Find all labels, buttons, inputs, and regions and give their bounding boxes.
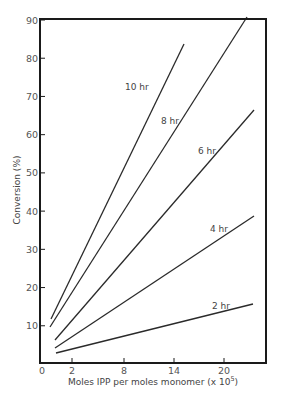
y-axis: 102030405060708090 xyxy=(26,15,45,332)
x-tick-label: 14 xyxy=(168,365,180,376)
series-label: 2 hr xyxy=(212,301,230,311)
y-tick-label: 70 xyxy=(26,91,38,102)
series-group: 10 hr8 hr6 hr4 hr2 hr xyxy=(50,17,254,353)
y-axis-title: Conversion (%) xyxy=(12,156,22,225)
y-tick-label: 80 xyxy=(26,53,38,64)
y-tick-label: 90 xyxy=(26,15,38,26)
x-axis-title: Moles IPP per moles monomer (x 105) xyxy=(68,375,238,387)
series-label: 4 hr xyxy=(210,224,228,234)
y-tick-label: 10 xyxy=(26,320,38,331)
y-tick-label: 50 xyxy=(26,167,38,178)
plot-frame xyxy=(40,19,266,363)
series-label: 10 hr xyxy=(125,82,149,92)
series-line-10-hr xyxy=(51,44,184,319)
y-tick-label: 30 xyxy=(26,244,38,255)
x-tick-label: 2 xyxy=(69,365,75,376)
chart: 102030405060708090 0281420 10 hr8 hr6 hr… xyxy=(0,0,282,399)
series-line-8-hr xyxy=(50,17,247,327)
x-tick-label: 8 xyxy=(121,365,127,376)
x-axis-title-main: Moles IPP per moles monomer (x 10 xyxy=(68,377,231,387)
y-tick-label: 60 xyxy=(26,129,38,140)
line-chart: 102030405060708090 0281420 10 hr8 hr6 hr… xyxy=(0,0,282,399)
x-tick-label: 20 xyxy=(218,365,230,376)
x-axis: 0281420 xyxy=(39,358,230,376)
x-axis-title-suffix: ) xyxy=(235,377,239,387)
series-label: 8 hr xyxy=(161,116,179,126)
series-label: 6 hr xyxy=(198,146,216,156)
y-tick-label: 20 xyxy=(26,282,38,293)
y-tick-label: 40 xyxy=(26,206,38,217)
x-tick-label: 0 xyxy=(39,365,45,376)
